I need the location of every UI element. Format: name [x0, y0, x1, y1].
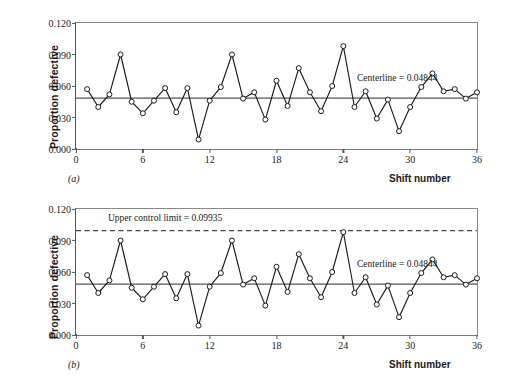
- data-point-marker: [174, 296, 179, 301]
- x-tick-label: 24: [338, 340, 348, 351]
- data-point-marker: [441, 89, 446, 94]
- data-point-marker: [85, 87, 90, 92]
- data-point-marker: [107, 278, 112, 283]
- data-point-marker: [196, 137, 201, 142]
- data-point-marker: [385, 283, 390, 288]
- y-axis-title-b: Proportion defective: [48, 234, 60, 338]
- data-point-marker: [140, 111, 145, 116]
- x-tick-label: 0: [74, 154, 79, 165]
- series-canvas-b: [76, 209, 477, 335]
- data-point-marker: [296, 66, 301, 71]
- data-point-marker: [129, 285, 134, 290]
- x-tick-label: 36: [472, 340, 482, 351]
- data-point-marker: [385, 97, 390, 102]
- data-point-marker: [341, 230, 346, 235]
- x-tick-label: 12: [205, 154, 215, 165]
- data-point-marker: [85, 273, 90, 278]
- data-point-marker: [419, 85, 424, 90]
- plot-area-b: 0.0000.0300.0600.0900.120061218243036: [75, 208, 478, 336]
- control-chart-panel-b: Proportion defective 0.0000.0300.0600.09…: [0, 185, 505, 388]
- y-tick-label: 0.060: [49, 81, 72, 92]
- data-point-marker: [330, 270, 335, 275]
- x-axis-title-a: Shift number: [389, 173, 451, 184]
- upper-control-limit-label: Upper control limit = 0.09935: [108, 213, 222, 223]
- data-point-marker: [263, 117, 268, 122]
- data-point-marker: [363, 275, 368, 280]
- data-point-marker: [218, 271, 223, 276]
- x-tick-label: 18: [272, 340, 282, 351]
- data-point-marker: [475, 90, 480, 95]
- data-point-marker: [419, 271, 424, 276]
- data-point-marker: [241, 96, 246, 101]
- data-point-marker: [207, 98, 212, 103]
- panel-letter-a: (a): [68, 173, 80, 184]
- data-point-marker: [174, 110, 179, 115]
- data-point-marker: [296, 252, 301, 257]
- data-point-marker: [252, 90, 257, 95]
- data-point-marker: [107, 92, 112, 97]
- series-canvas-a: [76, 23, 477, 149]
- x-tick-label: 12: [205, 340, 215, 351]
- data-point-marker: [140, 297, 145, 302]
- data-point-marker: [319, 109, 324, 114]
- centerline-label: Centerline = 0.04844: [357, 73, 438, 83]
- y-tick-label: 0.060: [49, 267, 72, 278]
- data-point-marker: [475, 276, 480, 281]
- data-point-marker: [241, 282, 246, 287]
- data-point-marker: [463, 96, 468, 101]
- x-tick-label: 18: [272, 154, 282, 165]
- data-point-marker: [129, 99, 134, 104]
- x-tick-label: 24: [338, 154, 348, 165]
- y-tick-label: 0.000: [49, 330, 72, 341]
- data-point-marker: [285, 103, 290, 108]
- data-point-marker: [151, 284, 156, 289]
- data-point-marker: [163, 272, 168, 277]
- data-point-marker: [408, 291, 413, 296]
- control-chart-panel-a: Proportion defective 0.0000.0300.0600.09…: [0, 0, 505, 194]
- data-point-marker: [185, 86, 190, 91]
- data-point-marker: [96, 105, 101, 110]
- centerline-label: Centerline = 0.04844: [357, 259, 438, 269]
- plot-area-a: 0.0000.0300.0600.0900.120061218243036: [75, 22, 478, 150]
- data-point-marker: [374, 302, 379, 307]
- data-point-marker: [363, 89, 368, 94]
- data-point-marker: [341, 44, 346, 49]
- data-point-marker: [151, 98, 156, 103]
- data-point-marker: [252, 276, 257, 281]
- data-point-marker: [163, 86, 168, 91]
- figure-caption-partial: [205, 372, 505, 384]
- data-point-marker: [452, 273, 457, 278]
- y-tick-label: 0.090: [49, 235, 72, 246]
- data-point-marker: [397, 315, 402, 320]
- panel-letter-b: (b): [68, 359, 80, 370]
- data-point-marker: [397, 129, 402, 134]
- data-point-marker: [96, 291, 101, 296]
- data-point-marker: [263, 303, 268, 308]
- data-point-marker: [307, 276, 312, 281]
- data-point-marker: [352, 291, 357, 296]
- data-point-marker: [307, 90, 312, 95]
- y-tick-label: 0.090: [49, 49, 72, 60]
- data-point-marker: [330, 84, 335, 89]
- x-tick-label: 6: [140, 154, 145, 165]
- data-point-marker: [196, 323, 201, 328]
- data-point-marker: [319, 295, 324, 300]
- data-point-marker: [441, 275, 446, 280]
- x-tick-label: 30: [405, 340, 415, 351]
- y-tick-label: 0.120: [49, 204, 72, 215]
- data-point-marker: [463, 282, 468, 287]
- data-series-line: [87, 232, 477, 325]
- data-point-marker: [185, 272, 190, 277]
- data-series-line: [87, 46, 477, 139]
- data-point-marker: [408, 105, 413, 110]
- x-axis-title-b: Shift number: [389, 359, 451, 370]
- data-point-marker: [352, 105, 357, 110]
- data-point-marker: [374, 116, 379, 121]
- x-tick-label: 30: [405, 154, 415, 165]
- data-point-marker: [118, 52, 123, 57]
- y-tick-label: 0.120: [49, 18, 72, 29]
- data-point-marker: [285, 289, 290, 294]
- data-point-marker: [274, 264, 279, 269]
- data-point-marker: [452, 87, 457, 92]
- data-point-marker: [229, 52, 234, 57]
